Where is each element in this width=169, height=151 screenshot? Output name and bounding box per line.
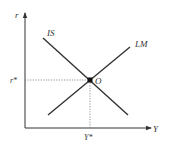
y-star-label: Y*	[84, 133, 92, 142]
is-label: IS	[46, 28, 55, 38]
x-axis-label: Y	[153, 124, 159, 134]
lm-label: LM	[134, 39, 148, 49]
is-curve	[43, 38, 128, 115]
r-star-label: r*	[10, 76, 17, 85]
is-lm-diagram: r Y IS LM O r* Y*	[0, 0, 169, 151]
equilibrium-label: O	[95, 76, 102, 86]
equilibrium-point	[88, 78, 93, 83]
y-axis-label: r	[15, 10, 19, 20]
